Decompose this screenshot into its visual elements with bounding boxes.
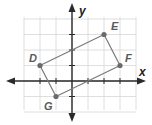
y-axis-label: y <box>78 4 87 18</box>
point-label-d: D <box>29 52 37 64</box>
coordinate-plane: x y DEFG <box>0 0 152 125</box>
x-axis-label: x <box>138 65 147 79</box>
point-g <box>53 94 58 99</box>
point-label-g: G <box>44 100 53 112</box>
y-axis-down-arrow-icon <box>69 113 76 122</box>
x-axis-left-arrow-icon <box>6 78 15 85</box>
point-label-f: F <box>125 52 132 64</box>
point-d <box>37 63 42 68</box>
point-f <box>117 63 122 68</box>
point-label-e: E <box>111 20 119 32</box>
point-e <box>101 32 106 37</box>
y-axis-up-arrow-icon <box>69 3 76 12</box>
